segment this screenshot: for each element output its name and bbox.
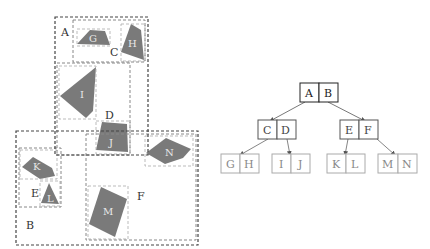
edge-C-GH xyxy=(240,139,268,155)
node-entry-E: E xyxy=(345,124,353,137)
tree-leaf-IJ: I J xyxy=(272,154,310,173)
tree-leaf-MN: M N xyxy=(378,154,417,173)
tree-leaf-GH: G H xyxy=(221,154,259,173)
edge-D-IJ xyxy=(287,139,290,155)
object-H-label: H xyxy=(128,38,137,49)
tree-leaf-KL: K L xyxy=(327,154,365,173)
region-D-label: D xyxy=(105,109,114,122)
node-entry-C: C xyxy=(263,124,271,137)
edge-B-EF xyxy=(328,102,365,121)
object-H: H xyxy=(121,24,145,61)
tree-node-CD: C D xyxy=(258,120,296,139)
object-J-label: J xyxy=(108,137,113,148)
object-G-label: G xyxy=(89,33,97,44)
leaf-entry-I: I xyxy=(279,158,283,171)
object-K-label: K xyxy=(33,161,41,172)
object-I-label: I xyxy=(80,89,84,100)
object-N: N xyxy=(145,136,193,166)
region-A-label: A xyxy=(60,26,70,39)
leaf-entry-G: G xyxy=(226,158,235,171)
tree-node-EF: E F xyxy=(340,120,378,139)
object-L: L xyxy=(40,181,60,206)
tree-panel: A B C D E F G H I J xyxy=(221,83,417,173)
root-entry-A: A xyxy=(304,87,314,100)
region-E-label: E xyxy=(31,187,39,200)
edge-F-MN xyxy=(377,139,395,155)
node-entry-D: D xyxy=(281,124,290,137)
leaf-entry-H: H xyxy=(244,158,254,171)
object-J: J xyxy=(96,121,130,154)
root-entry-B: B xyxy=(324,87,332,100)
region-B-label: B xyxy=(26,219,34,232)
region-C-label: C xyxy=(110,46,118,59)
edge-A-CD xyxy=(270,102,305,121)
spatial-layout-panel: G H I J K L M xyxy=(16,17,198,245)
object-M-label: M xyxy=(103,206,113,217)
object-K: K xyxy=(20,150,57,179)
object-G: G xyxy=(77,29,110,46)
object-M: M xyxy=(88,186,128,239)
region-F-label: F xyxy=(137,190,145,203)
node-entry-F: F xyxy=(364,124,372,137)
object-L-label: L xyxy=(47,193,54,204)
leaf-entry-L: L xyxy=(351,158,359,171)
r-tree-figure: G H I J K L M xyxy=(0,0,430,249)
leaf-entry-K: K xyxy=(332,158,341,171)
object-N-label: N xyxy=(165,147,174,158)
tree-node-root: A B xyxy=(300,83,338,102)
leaf-entry-J: J xyxy=(297,158,302,171)
edge-E-KL xyxy=(345,139,348,155)
object-I: I xyxy=(59,66,96,119)
leaf-entry-M: M xyxy=(382,158,393,171)
leaf-entry-N: N xyxy=(402,158,412,171)
